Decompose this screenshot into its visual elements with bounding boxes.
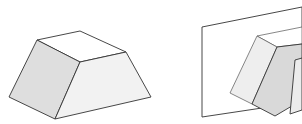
diagram-canvas <box>0 0 302 124</box>
frustum-solid <box>9 31 151 119</box>
plane-with-prism <box>202 7 302 117</box>
